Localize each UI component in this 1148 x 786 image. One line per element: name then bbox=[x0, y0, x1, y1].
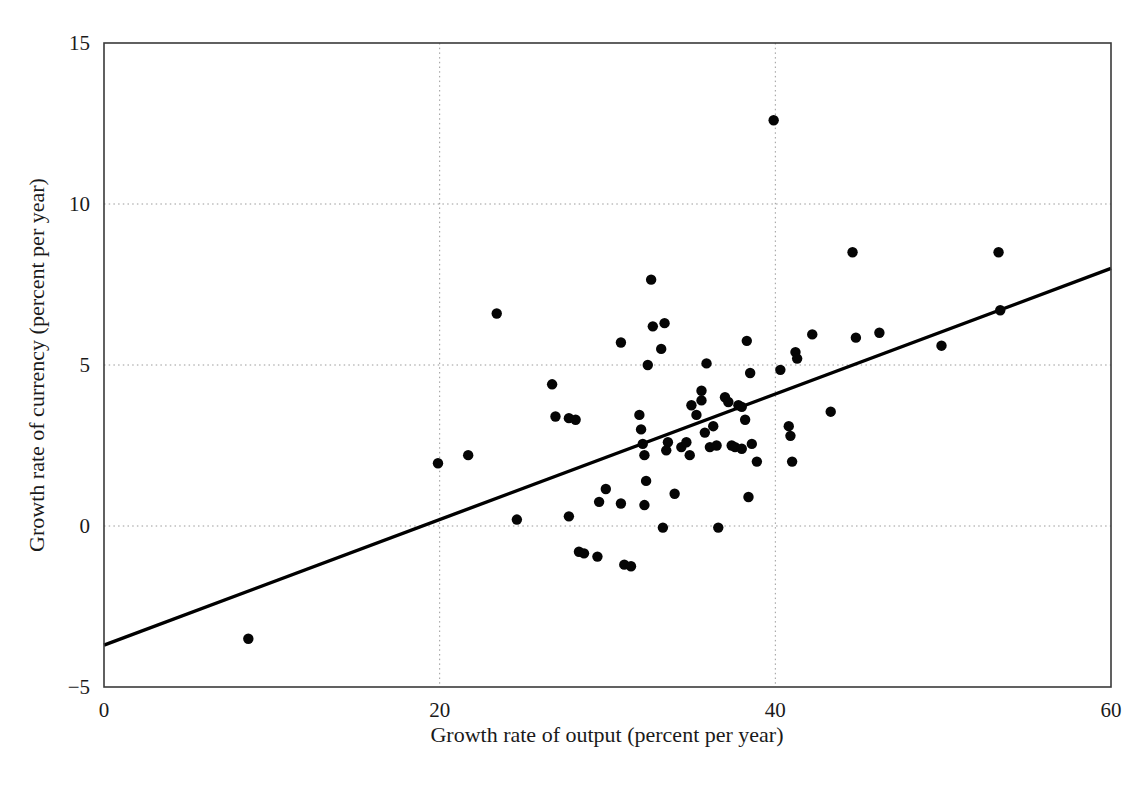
data-point bbox=[512, 514, 522, 524]
data-point bbox=[792, 353, 802, 363]
data-point bbox=[685, 450, 695, 460]
data-point bbox=[701, 358, 711, 368]
data-point bbox=[696, 395, 706, 405]
data-point bbox=[646, 274, 656, 284]
y-tick-label: 0 bbox=[80, 514, 91, 538]
y-tick-label: 10 bbox=[69, 192, 90, 216]
data-point bbox=[743, 492, 753, 502]
data-point bbox=[787, 456, 797, 466]
data-point bbox=[752, 456, 762, 466]
x-axis-title: Growth rate of output (percent per year) bbox=[430, 722, 783, 747]
data-point bbox=[807, 329, 817, 339]
data-point bbox=[659, 318, 669, 328]
x-tick-label: 40 bbox=[765, 698, 786, 722]
data-point bbox=[492, 308, 502, 318]
data-point bbox=[639, 500, 649, 510]
data-point bbox=[547, 379, 557, 389]
data-point bbox=[740, 415, 750, 425]
data-point bbox=[564, 511, 574, 521]
data-point bbox=[433, 458, 443, 468]
regression-trendline bbox=[104, 268, 1111, 645]
x-tick-label: 0 bbox=[99, 698, 110, 722]
data-point bbox=[747, 439, 757, 449]
data-point bbox=[826, 406, 836, 416]
data-point bbox=[874, 328, 884, 338]
x-tick-label: 20 bbox=[429, 698, 450, 722]
plot-canvas: −5051015 0204060 Growth rate of output (… bbox=[0, 0, 1148, 786]
data-point bbox=[691, 410, 701, 420]
data-point bbox=[658, 522, 668, 532]
data-point bbox=[634, 410, 644, 420]
data-point bbox=[785, 431, 795, 441]
data-point bbox=[713, 522, 723, 532]
data-point bbox=[669, 489, 679, 499]
data-point bbox=[592, 551, 602, 561]
data-point bbox=[775, 365, 785, 375]
data-point bbox=[681, 437, 691, 447]
x-axis-tick-labels: 0204060 bbox=[99, 698, 1122, 722]
data-point bbox=[936, 340, 946, 350]
y-tick-label: 15 bbox=[69, 31, 90, 55]
data-point bbox=[768, 115, 778, 125]
y-tick-label: −5 bbox=[68, 675, 90, 699]
data-point bbox=[648, 321, 658, 331]
data-point bbox=[723, 397, 733, 407]
data-point bbox=[851, 332, 861, 342]
data-point bbox=[745, 368, 755, 378]
data-point bbox=[616, 337, 626, 347]
data-point bbox=[847, 247, 857, 257]
y-axis-tick-labels: −5051015 bbox=[68, 31, 90, 699]
data-point bbox=[639, 450, 649, 460]
data-point bbox=[661, 445, 671, 455]
data-point bbox=[641, 476, 651, 486]
data-point bbox=[708, 421, 718, 431]
data-point bbox=[601, 484, 611, 494]
data-point bbox=[570, 415, 580, 425]
data-point bbox=[711, 440, 721, 450]
data-point bbox=[737, 402, 747, 412]
data-point bbox=[626, 561, 636, 571]
y-axis-title: Growth rate of currency (percent per yea… bbox=[24, 178, 49, 552]
data-point bbox=[993, 247, 1003, 257]
data-point bbox=[700, 427, 710, 437]
data-point bbox=[636, 424, 646, 434]
data-point bbox=[742, 336, 752, 346]
data-point bbox=[656, 344, 666, 354]
data-points-group bbox=[243, 115, 1005, 644]
data-point bbox=[686, 400, 696, 410]
trendline-group bbox=[104, 268, 1111, 645]
data-point bbox=[463, 450, 473, 460]
data-point bbox=[594, 497, 604, 507]
data-point bbox=[638, 439, 648, 449]
data-point bbox=[579, 548, 589, 558]
data-point bbox=[995, 305, 1005, 315]
data-point bbox=[550, 411, 560, 421]
data-point bbox=[643, 360, 653, 370]
data-point bbox=[737, 444, 747, 454]
data-point bbox=[243, 634, 253, 644]
scatter-plot-figure: −5051015 0204060 Growth rate of output (… bbox=[0, 0, 1148, 786]
x-tick-label: 60 bbox=[1101, 698, 1122, 722]
data-point bbox=[696, 386, 706, 396]
data-point bbox=[784, 421, 794, 431]
y-tick-label: 5 bbox=[80, 353, 91, 377]
data-point bbox=[616, 498, 626, 508]
